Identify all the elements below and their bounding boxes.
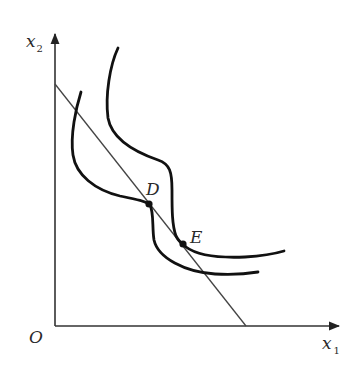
origin-label: O — [29, 327, 43, 347]
indifference-curve-diagram: D E x2 x1 O — [0, 0, 362, 378]
x-axis-label: x1 — [322, 333, 340, 356]
y-axis-label: x2 — [26, 31, 43, 54]
indifference-curve-inner — [72, 92, 258, 274]
indifference-curve-outer — [107, 48, 284, 257]
point-e — [179, 240, 186, 247]
point-d — [145, 200, 152, 207]
point-d-label: D — [145, 179, 160, 199]
point-e-label: E — [189, 227, 203, 247]
